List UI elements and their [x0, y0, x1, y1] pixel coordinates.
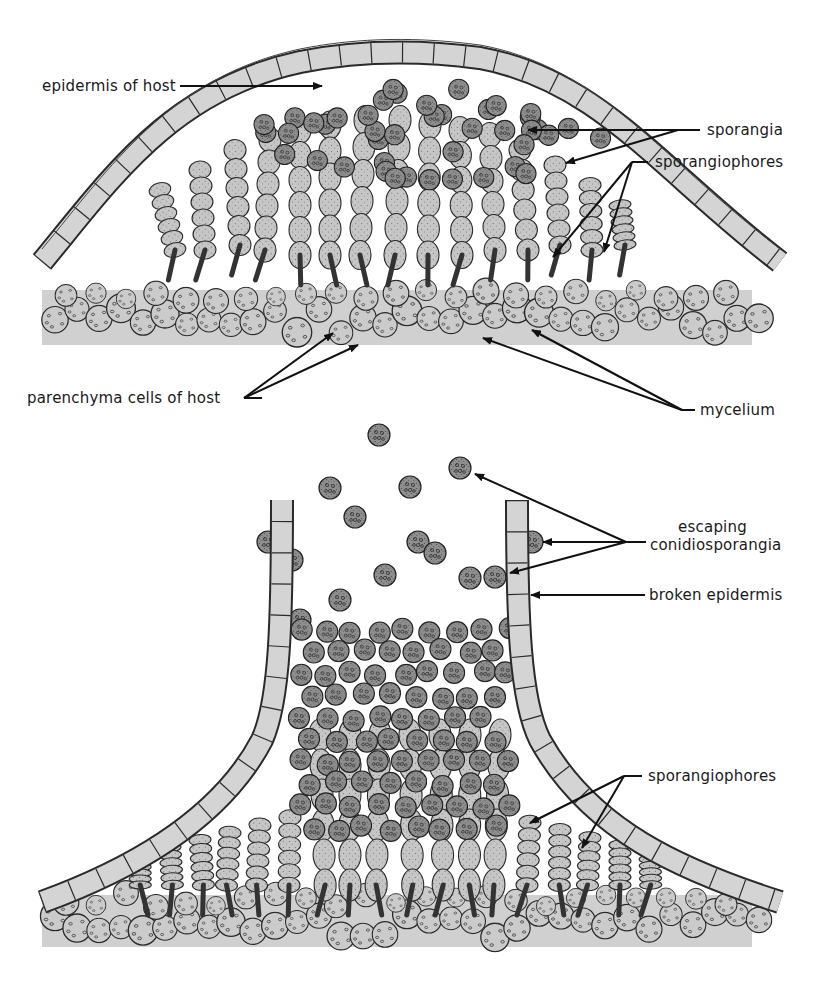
conidiosporangia-bottom	[257, 424, 543, 841]
label-sporangiophores-bottom: sporangiophores	[648, 767, 776, 785]
label-sporangiophores-top: sporangiophores	[655, 153, 783, 171]
broken-epidermis-left	[42, 500, 282, 902]
label-sporangia: sporangia	[707, 121, 783, 139]
label-escaping-line2: conidiosporangia	[650, 536, 775, 554]
label-escaping-line1: escaping	[650, 518, 775, 536]
label-mycelium: mycelium	[700, 401, 775, 419]
label-epidermis-of-host: epidermis of host	[42, 77, 176, 95]
bottom-panel	[40, 424, 780, 952]
parenchyma-layer-top	[42, 278, 773, 347]
label-parenchyma-cells-of-host: parenchyma cells of host	[27, 389, 220, 407]
label-escaping-conidiosporangia: escaping conidiosporangia	[650, 518, 775, 554]
epidermis-top	[42, 39, 780, 262]
white-rust-pustule-diagram	[0, 0, 826, 983]
label-broken-epidermis: broken epidermis	[649, 586, 783, 604]
